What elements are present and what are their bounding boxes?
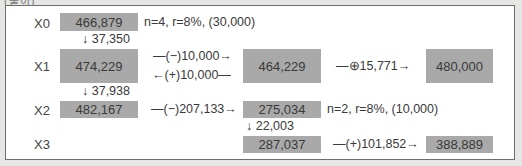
x3-right-value-box: 388,889 [426,136,493,153]
row-label-x3: X3 [34,137,50,152]
x1-middle-value-box: 464,229 [243,49,321,83]
x2-value: 482,167 [76,102,123,117]
arrow-x2-left-to-mid: —(−)207,133→ [151,102,237,116]
x2-middle-value: 275,034 [259,102,306,117]
x0-value-box: 466,879 [60,13,138,31]
x1-value-box: 474,229 [60,49,138,83]
arrow-x1-to-x2: ↓ 37,938 [82,84,130,98]
x2-value-box: 482,167 [60,101,138,118]
arrow-x1-forward: —(−)10,000→ [153,49,232,63]
row-label-x2: X2 [34,103,50,118]
row-label-x1: X1 [34,59,50,74]
x3-right-value: 388,889 [436,137,483,152]
x2-middle-value-box: 275,034 [243,101,321,118]
arrow-x1-backward: ←(+)10,000— [152,68,231,82]
arrow-x1-mid-to-right: —⊕15,771→ [336,58,410,73]
arrow-x3-mid-to-right: —(+)101,852→ [333,137,419,151]
row-label-x0: X0 [34,16,50,31]
arrow-x0-to-x1: ↓ 37,350 [82,32,130,46]
x1-right-value: 480,000 [436,59,483,74]
x3-middle-value: 287,037 [259,137,306,152]
x0-note: n=4, r=8%, (30,000) [144,15,255,29]
arrow-x2mid-to-x3mid: ↓ 22,003 [246,119,294,133]
x1-value: 474,229 [76,59,123,74]
x1-right-value-box: 480,000 [426,49,493,83]
x2-note: n=2, r=8%, (10,000) [327,102,438,116]
x3-middle-value-box: 287,037 [243,136,321,153]
x0-value: 466,879 [76,15,123,30]
diagram-frame: X0 X1 X2 X3 466,879 n=4, r=8%, (30,000) … [5,5,515,160]
x1-middle-value: 464,229 [259,59,306,74]
